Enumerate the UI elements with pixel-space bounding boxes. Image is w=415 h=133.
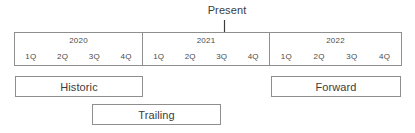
quarter-label[interactable]: 4Q xyxy=(238,52,270,61)
timeline-bar: 2020 1Q 2Q 3Q 4Q 2021 1Q 2Q 3Q 4Q 2022 1… xyxy=(14,32,403,66)
present-marker-label: Present xyxy=(182,4,272,16)
quarter-row: 1Q 2Q 3Q 4Q xyxy=(143,48,269,65)
year-label: 2021 xyxy=(143,33,269,48)
period-box-historic[interactable]: Historic xyxy=(15,76,143,97)
quarter-label[interactable]: 2Q xyxy=(47,52,79,61)
quarter-row: 1Q 2Q 3Q 4Q xyxy=(15,48,142,65)
quarter-label[interactable]: 1Q xyxy=(15,52,47,61)
year-block-2020[interactable]: 2020 1Q 2Q 3Q 4Q xyxy=(14,32,143,66)
year-block-2021[interactable]: 2021 1Q 2Q 3Q 4Q xyxy=(142,32,270,66)
period-box-forward[interactable]: Forward xyxy=(271,76,401,97)
quarter-label[interactable]: 4Q xyxy=(368,52,401,61)
quarter-label[interactable]: 2Q xyxy=(303,52,336,61)
period-box-trailing[interactable]: Trailing xyxy=(92,104,221,125)
quarter-label[interactable]: 1Q xyxy=(143,52,175,61)
quarter-label[interactable]: 2Q xyxy=(175,52,207,61)
quarter-label[interactable]: 1Q xyxy=(270,52,303,61)
timeline-diagram: Present 2020 1Q 2Q 3Q 4Q 2021 1Q 2Q 3Q 4… xyxy=(0,0,415,133)
quarter-label[interactable]: 3Q xyxy=(79,52,111,61)
quarter-label[interactable]: 4Q xyxy=(110,52,142,61)
year-label: 2022 xyxy=(270,33,401,48)
year-block-2022[interactable]: 2022 1Q 2Q 3Q 4Q xyxy=(269,32,402,66)
quarter-row: 1Q 2Q 3Q 4Q xyxy=(270,48,401,65)
quarter-label[interactable]: 3Q xyxy=(336,52,369,61)
quarter-label[interactable]: 3Q xyxy=(206,52,238,61)
year-label: 2020 xyxy=(15,33,142,48)
